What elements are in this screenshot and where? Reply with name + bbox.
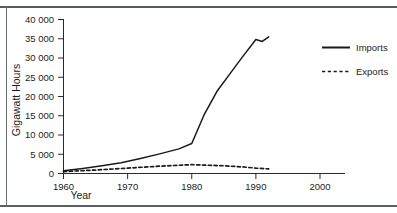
x-tick-label: 1970 bbox=[117, 181, 138, 192]
legend-label-imports: Imports bbox=[356, 42, 388, 53]
series-layer bbox=[64, 37, 269, 172]
x-axis-title: Year bbox=[70, 189, 92, 201]
chart-legend: Imports Exports bbox=[322, 42, 388, 77]
y-tick-label: 25 000 bbox=[25, 72, 54, 83]
line-chart: 05 00010 00015 00020 00025 00030 00035 0… bbox=[0, 0, 397, 213]
y-tick-label: 20 000 bbox=[25, 91, 54, 102]
x-tick-label: 1990 bbox=[245, 181, 266, 192]
x-tick-label: 2000 bbox=[309, 181, 330, 192]
figure-canvas: ......... 05 00010 00015 00020 00025 000… bbox=[0, 0, 397, 213]
legend-label-exports: Exports bbox=[356, 66, 388, 77]
y-tick-label: 10 000 bbox=[25, 129, 54, 140]
series-line-imports bbox=[64, 37, 269, 171]
y-tick-label: 5 000 bbox=[30, 149, 54, 160]
y-tick-label: 40 000 bbox=[25, 14, 54, 25]
y-axis-ticks: 05 00010 00015 00020 00025 00030 00035 0… bbox=[25, 14, 64, 179]
y-axis-title: Gigawatt Hours bbox=[10, 64, 22, 136]
x-axis-ticks: 19601970198019902000 bbox=[53, 174, 331, 193]
y-tick-label: 35 000 bbox=[25, 33, 54, 44]
y-tick-label: 15 000 bbox=[25, 110, 54, 121]
x-tick-label: 1980 bbox=[181, 181, 202, 192]
y-tick-label: 30 000 bbox=[25, 52, 54, 63]
y-tick-label: 0 bbox=[49, 168, 54, 179]
series-line-exports bbox=[64, 165, 269, 172]
